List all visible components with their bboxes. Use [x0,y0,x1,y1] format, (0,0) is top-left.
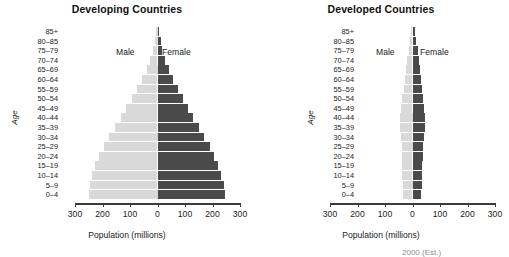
y-tick-label: 70–74 [14,56,58,66]
bar-male [406,65,413,74]
table-row [75,27,240,37]
table-row [75,65,240,75]
table-row [330,113,495,123]
bar-female [413,181,422,190]
bar-male [137,85,157,94]
bar-female [158,123,199,132]
bar-female [413,85,422,94]
x-tick [213,203,214,207]
table-row [75,85,240,95]
table-row [75,37,240,47]
x-tick [385,203,386,207]
bar-female [158,113,193,122]
table-row [330,181,495,191]
bar-female [158,142,210,151]
table-row [75,190,240,200]
bar-female [413,94,424,103]
bar-male [402,161,412,170]
bar-male [402,152,412,161]
series-label-female-developed: Female [420,47,449,57]
y-axis-labels-developing: 85+80–8575–7970–7465–6960–6455–5950–5445… [14,27,58,200]
bar-female [158,181,224,190]
y-tick-label: 55–59 [14,85,58,95]
bar-female [158,152,215,161]
table-row [75,152,240,162]
bar-female [158,56,165,65]
table-row [75,181,240,191]
table-row [330,27,495,37]
x-tick [240,203,241,207]
bar-female [413,133,425,142]
figure-footnote: 2000 (Est.) [402,248,441,257]
y-tick-label: 40–44 [14,113,58,123]
bar-male [402,142,413,151]
table-row [330,161,495,171]
x-tick [413,203,414,207]
bar-female [413,152,423,161]
chart-title-developing: Developing Countries [0,3,254,15]
plot-area-developing [75,27,240,200]
x-tick [75,203,76,207]
y-tick-label: 25–29 [14,142,58,152]
x-tick [185,203,186,207]
table-row [330,94,495,104]
chart-panel-developed: Developed Countries Age 85+80–8575–7970–… [254,0,508,254]
bar-female [413,161,423,170]
x-tick [103,203,104,207]
table-row [75,142,240,152]
chart-title-developed: Developed Countries [254,3,508,15]
bar-female [413,37,417,46]
table-row [75,161,240,171]
x-axis-title-developed: Population (millions) [254,230,508,240]
chart-panel-developing: Developing Countries Age 85+80–8575–7970… [0,0,254,254]
bar-male [150,56,157,65]
x-tick [330,203,331,207]
bar-male [99,152,157,161]
bar-female [413,113,425,122]
table-row [75,75,240,85]
bar-male [109,133,157,142]
bar-female [158,75,173,84]
series-label-female-developing: Female [162,47,191,57]
table-row [330,152,495,162]
table-row [330,56,495,66]
table-row [330,65,495,75]
y-tick-label: 15–19 [14,161,58,171]
table-row [330,123,495,133]
table-row [75,171,240,181]
y-tick-label: 45–49 [14,104,58,114]
bar-female [158,27,160,36]
y-tick-label: 85+ [14,27,58,37]
table-row [330,37,495,47]
bar-male [126,104,157,113]
bar-female [158,161,219,170]
bar-female [413,27,415,36]
x-tick-label: 300 [478,209,509,219]
y-tick-label: 75–79 [14,46,58,56]
bar-female [413,171,423,180]
bar-male [95,161,157,170]
table-row [330,46,495,56]
x-tick [358,203,359,207]
bar-male [121,113,158,122]
y-tick-label: 35–39 [14,123,58,133]
x-tick [495,203,496,207]
bar-male [403,181,413,190]
table-row [330,85,495,95]
y-tick-label: 10–14 [14,171,58,181]
x-axis-title-developing: Population (millions) [0,230,254,240]
y-tick-label: 20–24 [14,152,58,162]
table-row [330,104,495,114]
series-label-male-developed: Male [376,47,395,57]
bar-male [90,181,158,190]
bar-female [413,56,420,65]
table-row [330,142,495,152]
bar-male [89,190,158,199]
y-tick-label: 65–69 [14,65,58,75]
x-tick [468,203,469,207]
bar-female [413,123,426,132]
bar-male [402,94,412,103]
y-tick-label: 30–34 [14,133,58,143]
table-row [75,46,240,56]
table-row [75,56,240,66]
